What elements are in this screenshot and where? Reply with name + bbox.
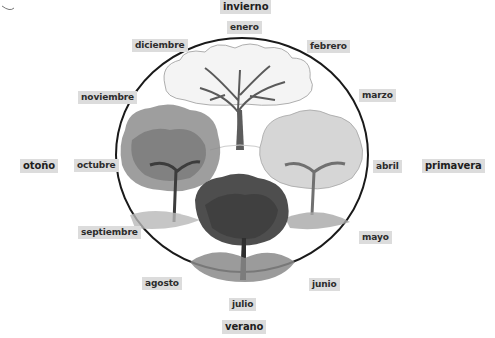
month-label-mar: marzo — [359, 89, 396, 102]
month-label-may: mayo — [359, 231, 392, 244]
summer-tree — [190, 174, 295, 282]
season-label-spring: primavera — [422, 159, 485, 173]
stray-stroke — [2, 6, 14, 10]
month-label-aug: agosto — [142, 277, 182, 290]
month-label-jul: julio — [229, 298, 256, 311]
month-label-oct: octubre — [74, 159, 119, 172]
season-label-autumn: otoño — [20, 159, 58, 173]
season-label-summer: verano — [222, 320, 266, 334]
month-label-dec: diciembre — [132, 39, 188, 52]
month-label-apr: abril — [373, 160, 402, 173]
month-label-nov: noviembre — [78, 91, 137, 104]
season-label-winter: invierno — [220, 0, 271, 14]
month-label-feb: febrero — [307, 40, 350, 53]
month-label-jun: junio — [309, 278, 340, 291]
month-label-sep: septiembre — [78, 226, 141, 239]
month-label-jan: enero — [227, 21, 262, 34]
